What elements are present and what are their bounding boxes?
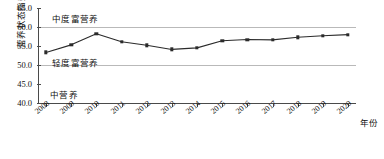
- data-point: [246, 38, 249, 41]
- y-tick-label: 45.0: [17, 79, 32, 89]
- data-point: [170, 48, 173, 51]
- data-point: [195, 46, 198, 49]
- data-point: [296, 36, 299, 39]
- data-point: [271, 38, 274, 41]
- y-tick-label: 65.0: [17, 3, 32, 13]
- y-tick-label: 50.0: [17, 60, 32, 70]
- data-point: [346, 33, 349, 36]
- annotation-moderate-eutrophic: 中度富营养: [52, 12, 99, 24]
- data-point: [145, 44, 148, 47]
- data-point: [220, 39, 223, 42]
- data-point: [120, 40, 123, 43]
- y-tick-label: 60.0: [17, 22, 32, 32]
- annotation-mesotrophic: 中营养: [50, 88, 78, 100]
- data-point: [321, 34, 324, 37]
- data-point: [44, 51, 47, 54]
- x-axis-title: 年份: [360, 116, 378, 128]
- plot-area: 40.045.050.055.060.065.0 200820092010201…: [38, 8, 356, 104]
- annotation-light-eutrophic: 轻度富营养: [52, 56, 99, 68]
- y-tick-label: 40.0: [17, 98, 32, 108]
- chart-figure: 营养状态指数 40.045.050.055.060.065.0 20082009…: [0, 0, 384, 159]
- y-tick-label: 55.0: [17, 41, 32, 51]
- data-point: [95, 32, 98, 35]
- data-point: [69, 43, 72, 46]
